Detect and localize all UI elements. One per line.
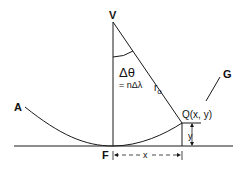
y-arrow-down-icon: [190, 142, 194, 146]
label-radius: ro: [154, 82, 162, 96]
x-arrow-right-icon: [177, 153, 181, 157]
geometry-diagram: V F A G Q(x, y) ro Δθ = nΔλ x y: [0, 0, 244, 169]
y-arrow-up-icon: [190, 123, 194, 127]
label-angle-equation: = nΔλ: [119, 80, 143, 90]
label-g: G: [223, 68, 232, 80]
label-a: A: [14, 101, 22, 113]
radius-subscript: o: [157, 87, 162, 96]
label-angle: Δθ: [119, 65, 135, 80]
label-x: x: [143, 150, 148, 160]
label-q: Q(x, y): [182, 109, 212, 120]
label-v: V: [109, 9, 117, 21]
angle-arc: [113, 51, 133, 57]
x-arrow-left-icon: [114, 153, 118, 157]
label-f: F: [102, 149, 109, 161]
curve-afq: [25, 107, 182, 146]
label-y: y: [188, 131, 193, 141]
curve-segment-g: [206, 77, 220, 101]
